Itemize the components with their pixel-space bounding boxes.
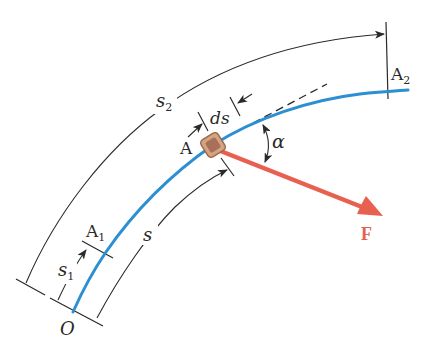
- label-origin: O: [60, 318, 75, 339]
- a2-tick: [386, 22, 388, 99]
- s-dimension-arc: [97, 170, 227, 318]
- label-a2: A2: [390, 64, 410, 87]
- label-ds: ds: [210, 108, 230, 128]
- particle-block: [199, 131, 227, 159]
- origin-tick-outer: [16, 279, 45, 295]
- s2-dimension-arc: [26, 34, 384, 283]
- ds-tick-end: [230, 97, 240, 116]
- label-a1: A1: [85, 221, 105, 244]
- ds-arrow-start: [188, 124, 202, 137]
- particle-path-curve: [73, 90, 408, 312]
- label-alpha: α: [272, 130, 285, 152]
- label-a: A: [179, 138, 193, 158]
- label-force: F: [361, 224, 372, 244]
- path-force-diagram: O A1 A A2 s s1 s2 ds α F: [0, 0, 435, 347]
- label-s: s: [143, 224, 152, 245]
- a-tick-s: [221, 158, 234, 176]
- force-arrow-shaft: [218, 150, 362, 207]
- ds-tick-start: [198, 112, 208, 131]
- ds-arrow-end: [238, 94, 252, 103]
- angle-alpha-arc: [263, 125, 269, 162]
- force-arrowhead: [357, 196, 383, 216]
